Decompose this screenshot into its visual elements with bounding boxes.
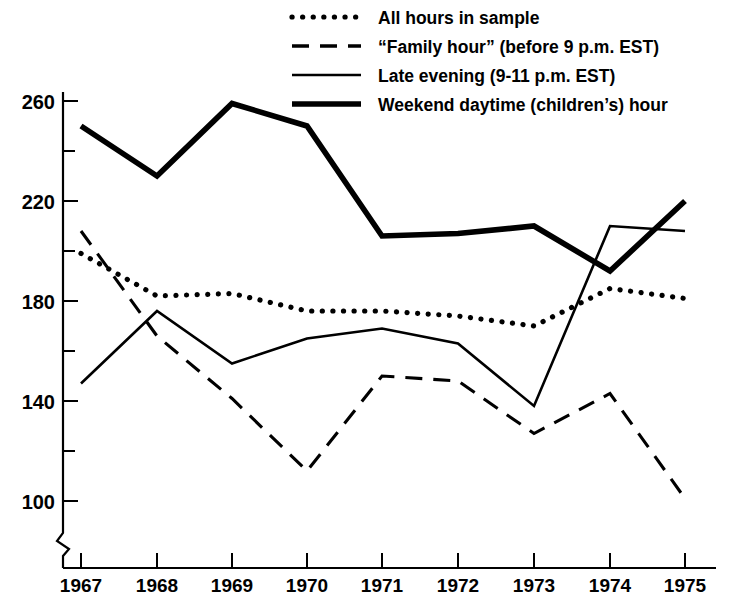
line-chart: 260 220 180 140 100 1967 1968 1969 1970 … bbox=[0, 0, 729, 613]
chart-figure: 260 220 180 140 100 1967 1968 1969 1970 … bbox=[0, 0, 729, 613]
legend-label-weekend-daytime: Weekend daytime (children’s) hour bbox=[378, 95, 668, 115]
series-group bbox=[81, 104, 685, 499]
x-tick-label: 1969 bbox=[211, 575, 253, 596]
x-tick-label: 1971 bbox=[361, 575, 404, 596]
y-tick-label: 260 bbox=[22, 91, 55, 113]
x-axis-tick-labels: 1967 1968 1969 1970 1971 1972 1973 1974 … bbox=[60, 575, 707, 596]
legend: All hours in sample “Family hour” (befor… bbox=[292, 8, 668, 115]
legend-label-late-evening: Late evening (9-11 p.m. EST) bbox=[378, 66, 615, 86]
x-tick-label: 1973 bbox=[513, 575, 555, 596]
series-late-evening bbox=[81, 226, 685, 406]
x-tick-label: 1970 bbox=[286, 575, 328, 596]
x-tick-label: 1972 bbox=[437, 575, 479, 596]
x-tick-label: 1968 bbox=[136, 575, 178, 596]
legend-label-family-hour: “Family hour” (before 9 p.m. EST) bbox=[378, 37, 659, 57]
x-tick-label: 1967 bbox=[60, 575, 102, 596]
legend-label-all-hours: All hours in sample bbox=[378, 8, 540, 28]
y-axis-tick-labels: 260 220 180 140 100 bbox=[22, 91, 55, 513]
y-tick-label: 140 bbox=[22, 391, 55, 413]
x-tick-label: 1974 bbox=[589, 575, 632, 596]
y-tick-label: 220 bbox=[22, 191, 55, 213]
y-tick-label: 180 bbox=[22, 291, 55, 313]
series-weekend-daytime bbox=[81, 104, 685, 272]
x-tick-label: 1975 bbox=[664, 575, 707, 596]
y-tick-label: 100 bbox=[22, 491, 55, 513]
series-family-hour bbox=[81, 231, 685, 499]
y-axis-major-ticks bbox=[63, 101, 78, 501]
x-axis-ticks bbox=[81, 553, 685, 568]
y-axis-line bbox=[57, 92, 69, 568]
